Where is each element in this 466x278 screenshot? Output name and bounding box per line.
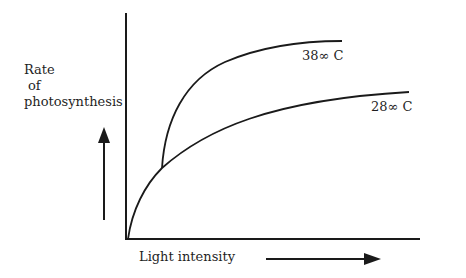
- y-axis-label-line2: of: [24, 78, 123, 94]
- y-axis-label-line1: Rate: [24, 62, 123, 78]
- x-direction-arrow-icon: [364, 253, 381, 265]
- y-axis-label-line3: photosynthesis: [24, 94, 123, 110]
- diagram-canvas: [0, 0, 466, 278]
- y-direction-arrow-icon: [98, 127, 110, 143]
- curve-38c-label: 38∞ C: [302, 48, 343, 64]
- y-axis-label: Rate of photosynthesis: [24, 62, 123, 110]
- curve-28c: [128, 92, 409, 239]
- curve-28c-label: 28∞ C: [371, 99, 412, 115]
- x-axis-label: Light intensity: [139, 249, 235, 265]
